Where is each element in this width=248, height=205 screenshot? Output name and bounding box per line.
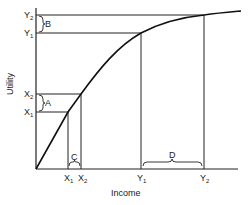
svg-text:2: 2 [30, 94, 34, 100]
svg-text:1: 1 [30, 112, 34, 118]
label-b: B [45, 19, 51, 29]
svg-text:2: 2 [206, 178, 210, 184]
y-axis-title: Utility [5, 73, 15, 95]
svg-text:2: 2 [84, 178, 88, 184]
x-tick-x2: X 2 [78, 173, 88, 184]
label-a: A [45, 98, 51, 108]
label-d: D [169, 150, 176, 160]
label-c: C [71, 152, 78, 162]
utility-curve [36, 11, 241, 169]
svg-text:2: 2 [30, 15, 34, 21]
x-axis-title: Income [111, 188, 141, 198]
x-tick-x1: X 1 [64, 173, 74, 184]
x-tick-y2: Y 2 [200, 173, 210, 184]
brace-d [143, 159, 202, 166]
y-tick-y2: Y 2 [24, 10, 34, 21]
utility-diagram: B A C D Y 2 Y 1 X 2 X 1 X 1 X 2 Y 1 Y 2 … [0, 0, 248, 205]
svg-text:1: 1 [143, 178, 147, 184]
x-tick-y1: Y 1 [137, 173, 147, 184]
y-tick-y1: Y 1 [24, 28, 34, 39]
y-tick-x2: X 2 [24, 89, 34, 100]
svg-text:1: 1 [30, 33, 34, 39]
svg-text:1: 1 [70, 178, 74, 184]
y-tick-x1: X 1 [24, 107, 34, 118]
